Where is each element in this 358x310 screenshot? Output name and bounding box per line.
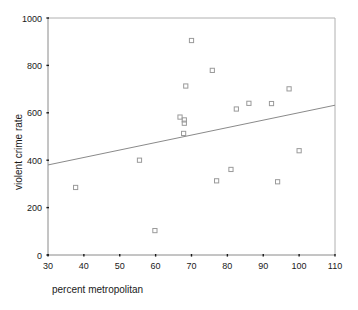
x-tick-label: 30 xyxy=(43,261,53,271)
x-tick-label: 60 xyxy=(151,261,161,271)
y-tick-label: 800 xyxy=(27,61,42,71)
x-tick-label: 70 xyxy=(186,261,196,271)
x-tick-label: 90 xyxy=(258,261,268,271)
scatter-plot-figure: 30405060708090100110 02004006008001000 p… xyxy=(0,0,358,310)
y-tick-label: 200 xyxy=(27,203,42,213)
x-tick-label: 40 xyxy=(79,261,89,271)
y-tick-label: 1000 xyxy=(22,14,42,24)
x-tick-label: 50 xyxy=(115,261,125,271)
x-axis-title: percent metropolitan xyxy=(52,284,143,295)
x-axis-tick-labels: 30405060708090100110 xyxy=(43,261,342,271)
y-tick-label: 400 xyxy=(27,156,42,166)
x-tick-label: 110 xyxy=(328,261,342,271)
y-axis-title: violent crime rate xyxy=(13,113,24,190)
y-tick-label: 600 xyxy=(27,108,42,118)
x-tick-label: 100 xyxy=(292,261,307,271)
chart-canvas: 30405060708090100110 02004006008001000 p… xyxy=(0,0,358,310)
y-tick-label: 0 xyxy=(37,251,42,261)
x-tick-label: 80 xyxy=(222,261,232,271)
